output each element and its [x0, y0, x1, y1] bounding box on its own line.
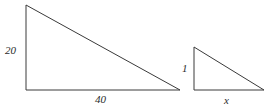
small-triangle-horizontal-leg-label: x: [224, 95, 229, 106]
large-triangle-horizontal-leg-label: 40: [95, 94, 106, 105]
large-triangle-vertical-leg-label: 20: [5, 45, 16, 56]
large-right-triangle: [26, 5, 180, 90]
small-triangle-vertical-leg-label: 1: [182, 63, 188, 74]
small-right-triangle: [194, 47, 264, 90]
geometry-figure: 20 40 1 x: [0, 0, 273, 109]
figure-canvas: [0, 0, 273, 109]
